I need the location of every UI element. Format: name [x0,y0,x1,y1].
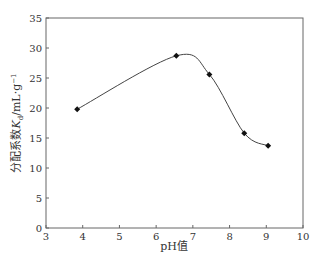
y-tick-label: 30 [29,43,42,54]
data-point [173,53,179,59]
x-axis-label: pH值 [160,240,188,253]
x-tick-label: 10 [297,231,310,242]
y-tick-label: 15 [29,133,42,144]
y-tick-label: 25 [29,73,42,84]
y-tick-label: 20 [29,103,42,114]
x-tick-label: 8 [226,231,232,242]
chart: 05101520253035 345678910 pH值 分配系数Kd/mL·g… [0,0,319,265]
x-tick-label: 9 [263,231,269,242]
y-tick-label: 10 [29,163,42,174]
x-tick-label: 4 [80,231,86,242]
y-label-main: 分配系数 [10,129,23,173]
x-tick-label: 5 [116,231,122,242]
x-tick-label: 6 [153,231,159,242]
y-axis-label: 分配系数Kd/mL·g−1 [10,73,25,172]
x-tick-label: 7 [190,231,196,242]
y-label-sup: −1 [10,73,18,83]
x-tick-label: 3 [43,231,49,242]
plot-frame [46,18,303,228]
y-tick-label: 35 [29,13,42,24]
series-line [77,54,268,146]
y-tick-label: 5 [36,193,42,204]
y-tick-label: 0 [36,223,42,234]
data-point [74,106,80,112]
series-markers [74,53,271,149]
data-point [265,143,271,149]
y-label-unit: /mL·g [10,84,23,116]
